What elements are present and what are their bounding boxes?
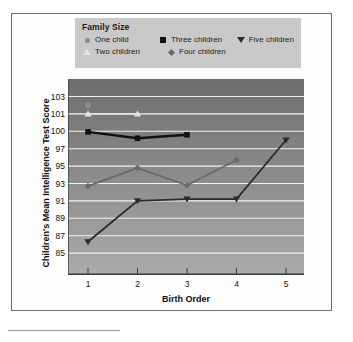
y-axis-tick-label: 95 (56, 162, 65, 171)
x-axis-title: Birth Order (68, 294, 304, 304)
x-axis-tick-label: 2 (135, 279, 140, 289)
y-axis-title-holder: Children's Mean Intelligence Test Score (18, 78, 36, 278)
y-axis-tick-label: 93 (56, 179, 65, 188)
y-axis-tick-label: 87 (56, 231, 65, 240)
x-axis-tick-label: 3 (185, 279, 190, 289)
chart-legend: Family Size One child Three children Fiv… (75, 18, 301, 68)
circle-marker-icon (82, 38, 92, 43)
y-axis-tick-labels: 10310110097959391898785 (40, 79, 65, 275)
triangle-up-marker-icon (82, 49, 92, 55)
figure: Family Size One child Three children Fiv… (0, 0, 353, 342)
plot-area (68, 79, 304, 275)
footer-divider (8, 330, 120, 331)
plot-background (68, 79, 304, 275)
legend-item-three-children[interactable]: Three children (158, 34, 236, 46)
square-marker-icon (85, 129, 91, 135)
x-axis-tick-labels: 12345 (68, 279, 304, 293)
y-axis-tick-label: 85 (56, 249, 65, 258)
square-marker-icon (135, 135, 141, 141)
legend-item-one-child[interactable]: One child (82, 34, 158, 46)
plot-svg (68, 79, 304, 275)
legend-row: One child Three children Five children (82, 34, 294, 46)
diamond-marker-icon (166, 50, 176, 55)
y-axis-tick-label: 101 (51, 109, 65, 118)
circle-marker-icon (85, 102, 91, 108)
legend-label: One child (95, 34, 129, 46)
square-marker-icon (184, 132, 190, 138)
legend-item-two-children[interactable]: Two children (82, 46, 166, 58)
x-axis-tick-label: 4 (234, 279, 239, 289)
legend-label: Four children (179, 46, 226, 58)
y-axis-tick-label: 91 (56, 196, 65, 205)
legend-label: Two children (95, 46, 140, 58)
legend-label: Five children (249, 34, 294, 46)
y-axis-tick-label: 89 (56, 214, 65, 223)
legend-item-four-children[interactable]: Four children (166, 46, 226, 58)
legend-row: Two children Four children (82, 46, 294, 58)
triangle-down-marker-icon (236, 37, 246, 43)
legend-label: Three children (171, 34, 222, 46)
x-axis-tick-label: 5 (284, 279, 289, 289)
y-axis-tick-label: 97 (56, 144, 65, 153)
y-axis-tick-label: 103 (51, 92, 65, 101)
square-marker-icon (158, 37, 168, 43)
legend-item-five-children[interactable]: Five children (236, 34, 294, 46)
series-one-child (85, 102, 91, 108)
legend-title: Family Size (82, 22, 294, 33)
x-axis-tick-label: 1 (86, 279, 91, 289)
y-axis-tick-label: 100 (51, 127, 65, 136)
